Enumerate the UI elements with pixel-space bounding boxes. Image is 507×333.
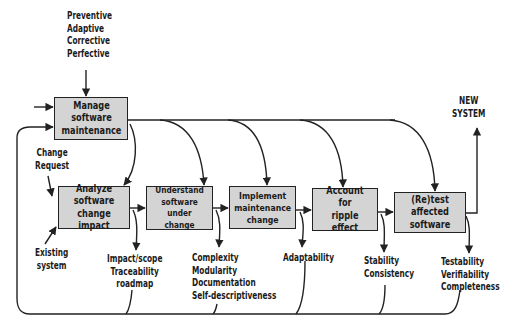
box-retest-software: (Re)test affected software [394,192,466,233]
maintenance-type-list: Preventive Adaptive Corrective Perfectiv… [67,10,112,60]
type-perfective: Perfective [67,48,112,61]
box-label: Account for ripple effect [319,185,371,235]
box-ripple-effect: Account for ripple effect [312,188,378,231]
retest-attributes: Testability Verifiability Completeness [441,256,500,294]
box-analyze-impact: Analyze software change impact [58,186,130,229]
type-corrective: Corrective [67,35,112,48]
box-understand-software: Understand software under change [146,186,213,230]
box-label: Analyze software change impact [65,183,122,233]
box-manage-maintenance: Manage software maintenance [54,97,128,140]
change-request-label: Change Request [35,147,69,172]
box-label: Manage software maintenance [61,100,121,138]
understand-attributes: Complexity Modularity Documentation Self… [192,252,276,302]
analyze-attributes: Impact/scope Traceability roadmap [107,253,162,291]
existing-system-label: Existing system [35,247,68,272]
box-label: (Re)test affected software [401,194,458,232]
implement-attributes: Adaptability [283,252,334,265]
type-preventive: Preventive [67,10,112,23]
ripple-attributes: Stability Consistency [364,255,414,280]
new-system-label: NEW SYSTEM [452,95,485,120]
box-implement-change: Implement maintenance change [229,186,296,229]
box-label: Implement maintenance change [234,190,291,226]
type-adaptive: Adaptive [67,23,112,36]
box-label: Understand software under change [153,185,206,231]
